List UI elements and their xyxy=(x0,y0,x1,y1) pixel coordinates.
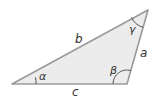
triangle-shape xyxy=(12,10,148,84)
side-b-label: b xyxy=(75,32,83,46)
side-c-label: c xyxy=(72,85,79,98)
angle-gamma-label: γ xyxy=(129,23,136,36)
angle-beta-label: β xyxy=(109,64,117,77)
angle-alpha-label: α xyxy=(39,70,47,83)
side-a-label: a xyxy=(140,46,147,60)
triangle-diagram: b a c α β γ xyxy=(0,0,157,98)
